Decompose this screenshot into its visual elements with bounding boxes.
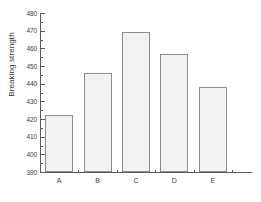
y-tick-label-wrap: 440	[13, 80, 37, 87]
x-tick-label-b: B	[88, 177, 108, 185]
y-tick-mark	[41, 172, 45, 173]
plot-area	[40, 13, 232, 172]
chart-figure: Breaking strength 3904004104204304404504…	[0, 0, 261, 202]
y-tick-label-wrap: 460	[13, 45, 37, 52]
y-tick-label: 420	[15, 116, 37, 123]
y-tick-label-wrap: 430	[13, 98, 37, 105]
y-tick-label-wrap: 420	[13, 116, 37, 123]
y-tick-label: 440	[15, 80, 37, 87]
x-tick-label-c: C	[126, 177, 146, 185]
x-axis-line	[40, 172, 252, 173]
x-tick-label-e: E	[203, 177, 223, 185]
y-tick-label: 430	[15, 98, 37, 105]
x-tick-mark-minor	[232, 170, 233, 172]
y-tick-label-wrap: 470	[13, 27, 37, 34]
y-tick-label: 400	[15, 151, 37, 158]
y-tick-label: 410	[15, 133, 37, 140]
bar-e	[199, 87, 227, 172]
bar-b	[84, 73, 112, 172]
y-tick-label: 450	[15, 63, 37, 70]
y-tick-label: 470	[15, 27, 37, 34]
y-tick-label-wrap: 480	[13, 10, 37, 17]
bar-a	[45, 115, 73, 172]
y-tick-label: 390	[15, 169, 37, 176]
x-tick-label-a: A	[49, 177, 69, 185]
y-tick-label: 460	[15, 45, 37, 52]
y-tick-label-wrap: 410	[13, 133, 37, 140]
y-tick-label-wrap: 390	[13, 169, 37, 176]
x-tick-label-d: D	[164, 177, 184, 185]
bar-d	[160, 54, 188, 172]
y-tick-label-wrap: 450	[13, 63, 37, 70]
y-tick-label: 480	[15, 10, 37, 17]
y-tick-label-wrap: 400	[13, 151, 37, 158]
bar-c	[122, 32, 150, 172]
